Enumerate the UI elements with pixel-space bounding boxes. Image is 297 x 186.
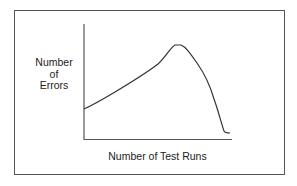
y-axis-label-line-3: Errors [24, 80, 84, 92]
errors-curve [84, 45, 230, 133]
y-axis-label-line-1: Number [24, 57, 84, 69]
y-axis-label: Number of Errors [24, 57, 84, 92]
x-axis-label: Number of Test Runs [100, 150, 215, 162]
